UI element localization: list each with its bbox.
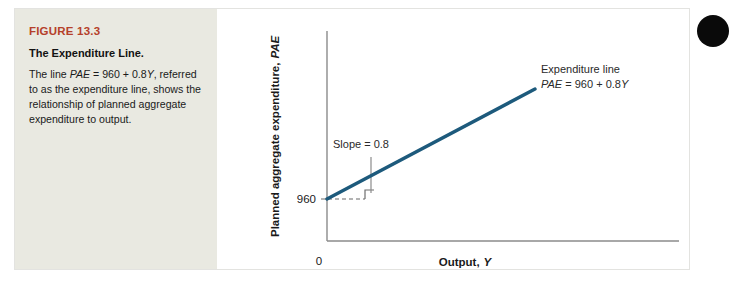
caption-prefix: The line — [29, 68, 70, 80]
caption-term-y: Y — [147, 68, 154, 80]
screenshot-root: FIGURE 13.3 The Expenditure Line. The li… — [0, 0, 753, 292]
y-axis-title: Planned aggregate expenditure,PAE — [269, 35, 281, 237]
figure-title: The Expenditure Line. — [29, 47, 203, 61]
figure-panel: FIGURE 13.3 The Expenditure Line. The li… — [14, 8, 690, 270]
y-axis-title-italic: PAE — [269, 35, 281, 58]
figure-caption-text: The line PAE = 960 + 0.8Y, referred to a… — [29, 67, 203, 127]
black-circle-decoration — [697, 15, 729, 47]
caption-term-pae: PAE — [70, 68, 90, 80]
chart-panel: Planned aggregate expenditure,PAE Output… — [217, 9, 689, 269]
caption-eq-mid: = 960 + 0.8 — [90, 68, 147, 80]
x-axis-title-text: Output, — [439, 256, 480, 268]
slope-step-marker — [365, 190, 374, 199]
expenditure-line-chart: Planned aggregate expenditure,PAE Output… — [217, 9, 691, 271]
x-axis-title: Output,Y — [439, 256, 493, 268]
series-label-line1: Expenditure line — [541, 63, 620, 75]
series-label-line2: PAE = 960 + 0.8Y — [541, 78, 629, 90]
series-eq-y: Y — [621, 78, 629, 90]
slope-annotation-label: Slope = 0.8 — [333, 138, 389, 150]
series-eq-rest: = 960 + 0.8 — [562, 78, 621, 90]
intercept-label-960: 960 — [297, 193, 316, 205]
y-axis-title-text: Planned aggregate expenditure, — [269, 63, 281, 237]
series-eq-pae: PAE — [541, 78, 563, 90]
figure-number-label: FIGURE 13.3 — [29, 25, 203, 38]
x-axis-title-italic: Y — [484, 256, 493, 268]
figure-caption-panel: FIGURE 13.3 The Expenditure Line. The li… — [15, 9, 217, 269]
origin-label: 0 — [316, 255, 322, 267]
